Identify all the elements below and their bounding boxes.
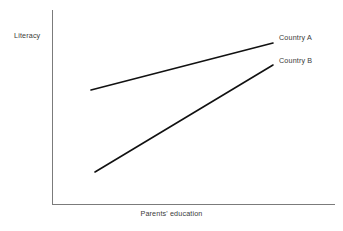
series-line-country-b [95, 65, 273, 172]
y-axis-label: Literacy [14, 31, 40, 40]
x-axis-label: Parents' education [0, 209, 343, 218]
line-chart-figure: Literacy Parents' education Country A Co… [0, 0, 343, 231]
series-label-country-a: Country A [279, 33, 312, 42]
series-label-country-b: Country B [279, 56, 312, 65]
series-line-country-a [91, 43, 273, 90]
